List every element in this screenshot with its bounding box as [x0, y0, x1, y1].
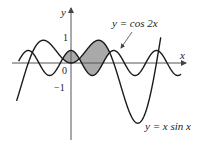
y-tick-label-neg1: −1: [54, 82, 65, 93]
x-axis-label: x: [179, 49, 185, 61]
y-axis-label: y: [60, 6, 66, 18]
y-tick-label-1: 1: [63, 32, 68, 43]
xsinx-label: y = x sin x: [144, 120, 191, 132]
label-pointer-arrow: [121, 32, 132, 48]
origin-label: 0: [62, 65, 67, 76]
cos2x-label: y = cos 2x: [111, 17, 158, 29]
graph: y x 0 1 −1 y = cos 2x y = x sin x: [0, 0, 199, 144]
